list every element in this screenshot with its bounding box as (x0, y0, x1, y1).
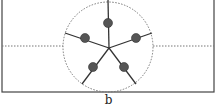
node-dot-3 (120, 63, 129, 72)
node-dot-4 (89, 63, 98, 72)
figure-label: b (0, 93, 217, 107)
node-dot-2 (132, 34, 141, 43)
diagram (0, 0, 217, 108)
spoke-2 (109, 33, 152, 48)
node-dot-5 (81, 34, 90, 43)
node-dot-1 (104, 19, 113, 28)
